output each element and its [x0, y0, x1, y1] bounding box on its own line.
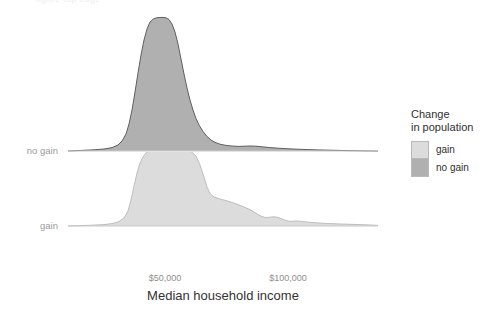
legend-swatch-stack — [411, 141, 429, 177]
legend-title-line-2: in population — [411, 121, 491, 134]
legend-label-gain[interactable]: gain — [436, 141, 469, 159]
series-area-gain — [68, 148, 378, 226]
legend-title-line-1: Change — [411, 108, 491, 121]
x-axis-title: Median household income — [68, 288, 378, 303]
legend-label-no-gain[interactable]: no gain — [436, 159, 469, 177]
y-axis-tick-no-gain: no gain — [0, 145, 58, 156]
legend-swatch-gain[interactable] — [412, 142, 428, 159]
no-gain-area-fill — [68, 17, 378, 151]
legend-label-stack: gain no gain — [436, 141, 469, 177]
x-axis-tick-50000: $50,000 — [130, 273, 200, 283]
legend-title: Change in population — [411, 108, 491, 134]
legend-items: gain no gain — [411, 141, 491, 177]
series-area-no-gain — [68, 17, 378, 151]
ridgeline-chart-figure: figure top edge no gain gain $50,000 $10… — [0, 0, 493, 313]
gain-area-fill — [68, 148, 378, 226]
no-gain-area-outline — [68, 17, 378, 151]
y-axis-tick-gain: gain — [0, 220, 58, 231]
legend: Change in population gain no gain — [411, 108, 491, 177]
x-axis-tick-100000: $100,000 — [253, 273, 323, 283]
legend-swatch-no-gain[interactable] — [412, 159, 428, 176]
